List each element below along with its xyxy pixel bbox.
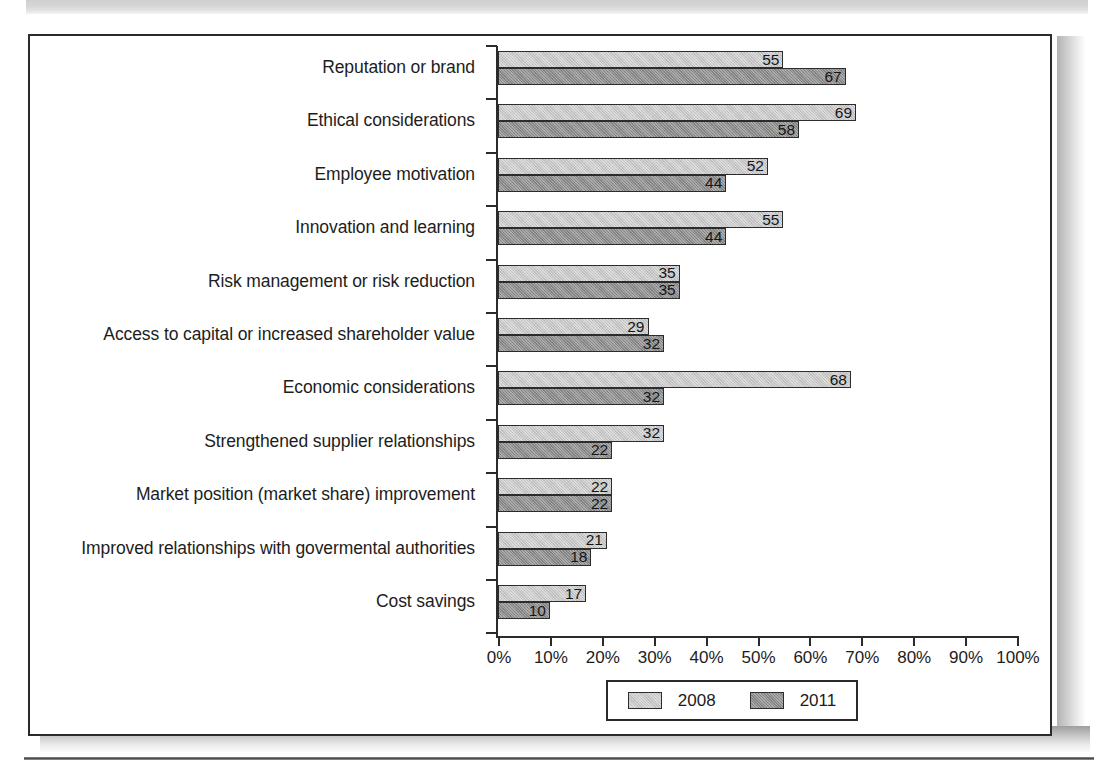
x-axis-tick-label: 90% bbox=[949, 648, 983, 668]
category-label: Employee motivation bbox=[314, 165, 475, 184]
plot-area: Reputation or brand5567Ethical considera… bbox=[30, 36, 1050, 734]
x-axis-tick bbox=[654, 636, 656, 646]
bar-group: Economic considerations6832 bbox=[30, 366, 1050, 419]
bar-2011: 22 bbox=[498, 495, 612, 512]
x-axis-tick bbox=[965, 636, 967, 646]
bar-value-label: 68 bbox=[830, 372, 847, 388]
x-axis-tick-label: 80% bbox=[897, 648, 931, 668]
x-axis-tick-label: 40% bbox=[690, 648, 724, 668]
y-axis-tick bbox=[486, 579, 497, 581]
y-axis-tick bbox=[486, 632, 497, 634]
bar-value-label: 29 bbox=[627, 318, 644, 334]
bar-2011: 18 bbox=[498, 549, 591, 566]
bar-2008: 69 bbox=[498, 104, 856, 121]
bar-2008: 52 bbox=[498, 158, 768, 175]
bar-value-label: 32 bbox=[643, 425, 660, 441]
bar-2008: 55 bbox=[498, 51, 783, 68]
bar-value-label: 21 bbox=[586, 532, 603, 548]
bar-2011: 44 bbox=[498, 175, 726, 192]
page-bottom-rule bbox=[24, 757, 1094, 760]
category-label: Risk management or risk reduction bbox=[208, 272, 475, 291]
bar-value-label: 35 bbox=[658, 265, 675, 281]
bar-2008: 22 bbox=[498, 478, 612, 495]
bar-2008: 68 bbox=[498, 371, 851, 388]
bar-value-label: 10 bbox=[529, 602, 546, 618]
bar-group: Employee motivation5244 bbox=[30, 153, 1050, 206]
bar-value-label: 32 bbox=[643, 389, 660, 405]
bar-value-label: 22 bbox=[591, 442, 608, 458]
bar-value-label: 55 bbox=[762, 51, 779, 67]
x-axis-tick-label: 20% bbox=[586, 648, 620, 668]
legend-swatch-2008 bbox=[628, 692, 662, 709]
bar-group: Innovation and learning5544 bbox=[30, 206, 1050, 259]
legend-item-2008: 2008 bbox=[628, 692, 716, 709]
category-label: Strengthened supplier relationships bbox=[204, 432, 475, 451]
x-axis-tick-label: 50% bbox=[741, 648, 775, 668]
bar-2008: 35 bbox=[498, 265, 680, 282]
bar-2008: 55 bbox=[498, 211, 783, 228]
legend-swatch-2011 bbox=[750, 692, 784, 709]
bar-group: Access to capital or increased sharehold… bbox=[30, 313, 1050, 366]
x-axis-tick bbox=[913, 636, 915, 646]
scan-right-shadow bbox=[1057, 36, 1085, 736]
bar-value-label: 22 bbox=[591, 479, 608, 495]
x-axis-tick-label: 60% bbox=[793, 648, 827, 668]
bar-2011: 58 bbox=[498, 121, 799, 138]
bar-value-label: 67 bbox=[824, 68, 841, 84]
x-axis-tick bbox=[602, 636, 604, 646]
x-axis-tick bbox=[498, 636, 500, 646]
category-label: Access to capital or increased sharehold… bbox=[103, 325, 475, 344]
legend-label-2008: 2008 bbox=[678, 692, 716, 709]
bar-2011: 44 bbox=[498, 228, 726, 245]
bar-2008: 29 bbox=[498, 318, 649, 335]
x-axis-tick bbox=[550, 636, 552, 646]
bar-value-label: 18 bbox=[570, 549, 587, 565]
x-axis-tick bbox=[758, 636, 760, 646]
y-axis-tick bbox=[486, 98, 497, 100]
bar-value-label: 52 bbox=[747, 158, 764, 174]
x-axis-tick-label: 10% bbox=[534, 648, 568, 668]
chart-legend: 2008 2011 bbox=[606, 680, 858, 721]
category-label: Market position (market share) improveme… bbox=[136, 485, 475, 504]
category-label: Innovation and learning bbox=[295, 218, 475, 237]
x-axis-tick bbox=[861, 636, 863, 646]
x-axis-tick-label: 0% bbox=[487, 648, 512, 668]
bar-group: Strengthened supplier relationships3222 bbox=[30, 420, 1050, 473]
x-axis-tick-label: 30% bbox=[638, 648, 672, 668]
bar-group: Ethical considerations6958 bbox=[30, 99, 1050, 152]
y-axis-tick bbox=[486, 45, 497, 47]
bar-value-label: 32 bbox=[643, 335, 660, 351]
x-axis-line bbox=[496, 636, 1017, 638]
x-axis-tick-label: 70% bbox=[845, 648, 879, 668]
bar-2008: 21 bbox=[498, 532, 607, 549]
x-axis-tick bbox=[706, 636, 708, 646]
legend-label-2011: 2011 bbox=[800, 692, 837, 709]
bar-value-label: 55 bbox=[762, 212, 779, 228]
bar-2011: 35 bbox=[498, 282, 680, 299]
bar-2008: 17 bbox=[498, 585, 586, 602]
category-label: Economic considerations bbox=[283, 378, 475, 397]
y-axis-tick bbox=[486, 472, 497, 474]
bar-value-label: 58 bbox=[778, 122, 795, 138]
bar-2011: 10 bbox=[498, 602, 550, 619]
bar-value-label: 17 bbox=[565, 585, 582, 601]
bar-group: Improved relationships with govermental … bbox=[30, 527, 1050, 580]
x-axis-tick bbox=[1017, 636, 1019, 646]
y-axis-tick bbox=[486, 419, 497, 421]
y-axis-tick bbox=[486, 205, 497, 207]
bar-group: Risk management or risk reduction3535 bbox=[30, 260, 1050, 313]
category-label: Cost savings bbox=[376, 592, 475, 611]
chart-frame: Reputation or brand5567Ethical considera… bbox=[28, 34, 1052, 736]
bar-2011: 32 bbox=[498, 335, 664, 352]
x-axis-tick-label: 100% bbox=[996, 648, 1039, 668]
y-axis-tick bbox=[486, 526, 497, 528]
x-axis-tick bbox=[809, 636, 811, 646]
bar-2008: 32 bbox=[498, 425, 664, 442]
bar-2011: 22 bbox=[498, 442, 612, 459]
legend-item-2011: 2011 bbox=[750, 692, 837, 709]
bar-2011: 32 bbox=[498, 388, 664, 405]
bar-group: Cost savings1710 bbox=[30, 580, 1050, 633]
category-label: Improved relationships with govermental … bbox=[81, 539, 475, 558]
y-axis-tick bbox=[486, 312, 497, 314]
y-axis-tick bbox=[486, 152, 497, 154]
